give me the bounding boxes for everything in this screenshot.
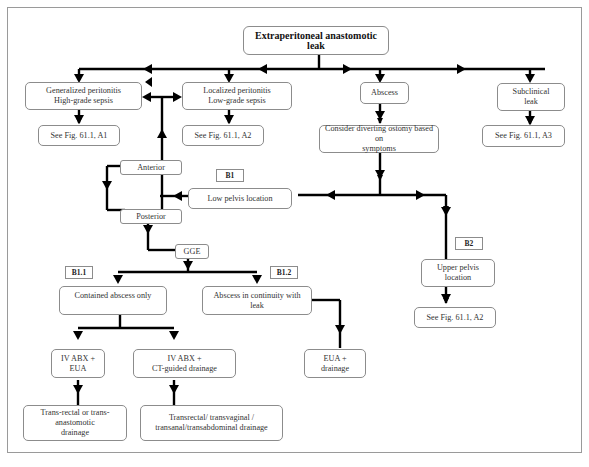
- node-text: Abscess: [371, 88, 398, 98]
- node-text: IV ABX + EUA: [61, 354, 95, 374]
- node-text: Contained abscess only: [75, 291, 152, 301]
- node-diverting-ostomy: Consider diverting ostomy based on sympt…: [319, 125, 439, 153]
- label-text: B1: [226, 171, 235, 180]
- node-text: See Fig. 61.1, A3: [495, 131, 552, 141]
- label-b1: B1: [216, 169, 244, 182]
- node-text: IV ABX + CT-guided drainage: [152, 354, 217, 374]
- node-text: Abscess in continuity with leak: [213, 291, 300, 311]
- node-anterior: Anterior: [120, 160, 182, 175]
- title-node: Extraperitoneal anastomotic leak: [243, 26, 389, 55]
- node-transrectal-multi: Transrectal/ transvaginal / transanal/tr…: [140, 405, 283, 441]
- node-see-fig-a2-top: See Fig. 61.1, A2: [182, 125, 264, 146]
- node-text: Subclinical leak: [513, 87, 550, 107]
- label-b2: B2: [455, 237, 483, 250]
- node-ivabx-eua: IV ABX + EUA: [51, 349, 105, 378]
- node-text: Consider diverting ostomy based on sympt…: [323, 124, 435, 154]
- node-gge: GGE: [175, 244, 209, 259]
- node-text: Generalized peritonitis High-grade sepsi…: [46, 86, 121, 106]
- node-text: Trans-rectal or trans- anastomotic drain…: [41, 408, 110, 438]
- node-text: Posterior: [136, 212, 166, 222]
- node-text: Localized peritonitis Low-grade sepsis: [203, 86, 271, 106]
- node-text: See Fig. 61.1, A1: [51, 131, 108, 141]
- node-text: See Fig. 61.1, A2: [427, 313, 484, 323]
- label-b1-1: B1.1: [65, 266, 93, 279]
- node-text: EUA + drainage: [321, 354, 349, 374]
- node-see-fig-a2-bottom: See Fig. 61.1, A2: [414, 307, 496, 328]
- node-text: See Fig. 61.1, A2: [195, 131, 252, 141]
- node-text: Low pelvis location: [207, 194, 272, 204]
- node-see-fig-a3: See Fig. 61.1, A3: [482, 125, 565, 147]
- label-text: B1.1: [72, 268, 86, 277]
- node-posterior: Posterior: [120, 209, 182, 224]
- node-text: GGE: [184, 247, 201, 257]
- node-text: Transrectal/ transvaginal / transanal/tr…: [155, 413, 268, 433]
- label-text: B2: [465, 239, 474, 248]
- label-b1-2: B1.2: [270, 266, 298, 279]
- connector-lines: [0, 0, 589, 467]
- node-text: Anterior: [137, 163, 165, 173]
- node-see-fig-a1: See Fig. 61.1, A1: [38, 125, 120, 146]
- node-text: Upper pelvis location: [437, 263, 479, 283]
- title-text: Extraperitoneal anastomotic leak: [247, 31, 385, 51]
- node-ivabx-ct: IV ABX + CT-guided drainage: [133, 349, 236, 378]
- node-subclinical-leak: Subclinical leak: [497, 83, 565, 111]
- label-text: B1.2: [277, 268, 291, 277]
- node-upper-pelvis: Upper pelvis location: [421, 259, 495, 287]
- node-abscess: Abscess: [360, 82, 409, 104]
- node-low-pelvis: Low pelvis location: [188, 188, 292, 209]
- node-generalized-peritonitis: Generalized peritonitis High-grade sepsi…: [25, 82, 142, 110]
- node-localized-peritonitis: Localized peritonitis Low-grade sepsis: [182, 82, 292, 110]
- node-eua-drainage: EUA + drainage: [304, 349, 366, 378]
- node-abscess-continuity: Abscess in continuity with leak: [202, 286, 312, 315]
- node-contained-abscess: Contained abscess only: [59, 286, 167, 315]
- node-transrectal-anastomotic: Trans-rectal or trans- anastomotic drain…: [23, 405, 127, 441]
